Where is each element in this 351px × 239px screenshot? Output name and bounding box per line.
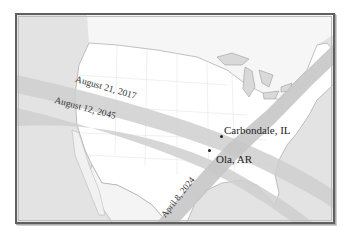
map-frame: August 21, 2017 August 12, 2045 April 8,… (15, 13, 335, 224)
frame-inner-border (18, 16, 332, 221)
